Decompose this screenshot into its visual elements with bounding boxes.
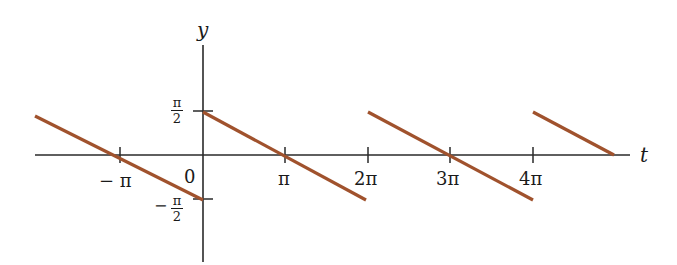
- tick-label-4pi: 4π: [519, 168, 542, 189]
- tick-label-3pi: 3π: [436, 168, 459, 189]
- y-axis-label: y: [197, 18, 208, 42]
- tick-label-half-pi: π 2: [171, 96, 183, 125]
- tick-label-pi: π: [278, 168, 290, 189]
- x-axis-label: t: [640, 143, 648, 167]
- tick-label-neg-pi: − π: [99, 170, 132, 191]
- tick-label-neg-half-pi: π 2: [171, 194, 183, 223]
- tick-label-origin: 0: [184, 166, 195, 187]
- segment-4: [533, 112, 614, 155]
- chart-canvas: [0, 0, 677, 265]
- neg-sign: −: [154, 196, 167, 215]
- tick-label-2pi: 2π: [354, 168, 377, 189]
